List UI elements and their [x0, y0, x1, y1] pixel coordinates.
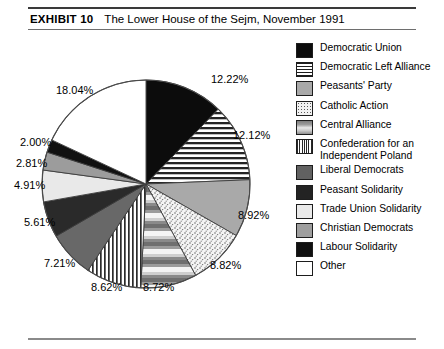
legend-item[interactable]: Central Alliance — [296, 119, 442, 135]
legend-swatch-icon — [296, 204, 313, 219]
legend-swatch-icon — [296, 261, 313, 276]
pie-value-label: 8.72% — [143, 281, 174, 293]
legend-swatch-icon — [296, 43, 313, 58]
pie-value-label: 8.62% — [91, 281, 122, 293]
legend-item-label: Other — [320, 260, 346, 272]
legend-swatch-icon — [296, 242, 313, 257]
pie-value-label: 12.22% — [211, 73, 248, 85]
pie-value-label: 8.92% — [238, 209, 269, 221]
legend-swatch-icon — [296, 62, 313, 77]
legend-item-label: Liberal Democrats — [320, 164, 404, 176]
exhibit-header: EXHIBIT 10The Lower House of the Sejm, N… — [30, 11, 345, 28]
legend-item[interactable]: Labour Solidarity — [296, 241, 442, 257]
legend-item-label: Democratic Union — [320, 42, 402, 54]
chart-legend: Democratic UnionDemocratic Left Alliance… — [296, 42, 442, 279]
legend-item[interactable]: Trade Union Solidarity — [296, 203, 442, 219]
legend-item-label: Trade Union Solidarity — [320, 203, 422, 215]
legend-item[interactable]: Liberal Democrats — [296, 164, 442, 180]
pie-value-label: 18.04% — [56, 84, 93, 96]
header-rule-top — [28, 7, 416, 9]
exhibit-figure: EXHIBIT 10The Lower House of the Sejm, N… — [0, 0, 444, 349]
legend-swatch-icon — [296, 120, 313, 135]
pie-value-label: 2.81% — [16, 157, 47, 169]
legend-item-label: Central Alliance — [320, 119, 392, 131]
legend-swatch-icon — [296, 101, 313, 116]
legend-swatch-icon — [296, 81, 313, 96]
pie-value-label: 2.00% — [20, 136, 51, 148]
legend-item[interactable]: Peasant Solidarity — [296, 184, 442, 200]
legend-item[interactable]: Peasants' Party — [296, 80, 442, 96]
legend-item[interactable]: Democratic Union — [296, 42, 442, 58]
legend-item-label: Catholic Action — [320, 100, 388, 112]
legend-item[interactable]: Catholic Action — [296, 100, 442, 116]
pie-value-label: 8.82% — [210, 259, 241, 271]
pie-value-label: 12.12% — [233, 129, 270, 141]
legend-swatch-icon — [296, 223, 313, 238]
legend-item[interactable]: Democratic Left Alliance — [296, 61, 442, 77]
legend-item-label: Democratic Left Alliance — [320, 61, 430, 73]
footer-rule — [28, 338, 416, 340]
legend-item[interactable]: Confederation for an Independent Poland — [296, 138, 442, 161]
legend-swatch-icon — [296, 139, 313, 154]
exhibit-label: EXHIBIT 10 — [30, 13, 93, 25]
legend-item-label: Labour Solidarity — [320, 241, 397, 253]
legend-swatch-icon — [296, 165, 313, 180]
pie-value-label: 5.61% — [24, 216, 55, 228]
legend-item-label: Christian Democrats — [320, 222, 413, 234]
legend-item-label: Peasant Solidarity — [320, 184, 403, 196]
pie-value-label: 7.21% — [44, 257, 75, 269]
header-rule-bottom — [28, 29, 416, 30]
legend-item-label: Peasants' Party — [320, 80, 392, 92]
legend-swatch-icon — [296, 185, 313, 200]
legend-item-label: Confederation for an Independent Poland — [320, 138, 438, 161]
legend-item[interactable]: Other — [296, 260, 442, 276]
legend-item[interactable]: Christian Democrats — [296, 222, 442, 238]
pie-value-label: 4.91% — [14, 179, 45, 191]
page-title: The Lower House of the Sejm, November 19… — [104, 13, 344, 25]
